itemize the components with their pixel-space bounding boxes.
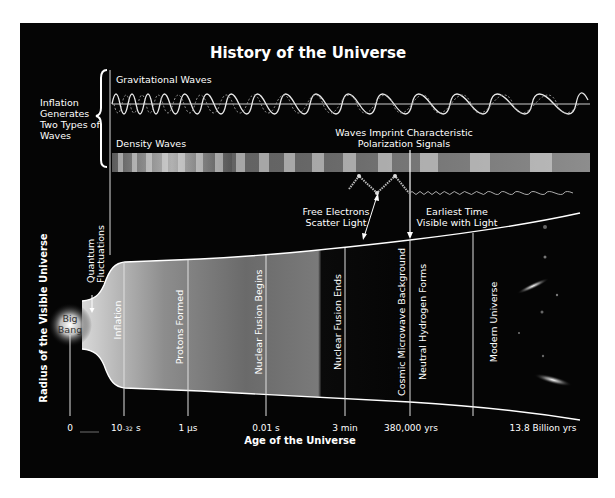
quantum-fluctuations-label: Quantum Fluctuations	[85, 225, 106, 283]
inflation-note-line-1: Inflation	[40, 97, 79, 108]
epoch-label-nuclear-fusion-ends: Nuclear Fusion Ends	[332, 274, 343, 370]
tick-inflation: 10 -32 s	[111, 423, 141, 433]
epoch-label-protons-formed: Protons Formed	[174, 290, 185, 364]
inflation-note-line-2: Generates	[40, 108, 89, 119]
inflation-note-line-3: Two Types of	[39, 119, 100, 130]
universe-cone	[82, 213, 580, 420]
tick-13-8-billion-yrs: 13.8 Billion yrs	[510, 423, 577, 433]
gravitational-waves-label: Gravitational Waves	[116, 74, 212, 85]
svg-text:s: s	[136, 423, 141, 433]
svg-text:Fluctuations: Fluctuations	[95, 225, 106, 283]
polarization-line-2: Polarization Signals	[358, 138, 450, 149]
tick-0-01-s: 0.01 s	[252, 423, 280, 433]
inflation-note: Inflation Generates Two Types of Waves	[39, 97, 100, 141]
arrow-down-small-icon	[362, 233, 367, 240]
inflation-note-line-4: Waves	[40, 130, 71, 141]
y-axis-label: Radius of the Visible Universe	[38, 233, 49, 403]
epoch-label-inflation: Inflation	[112, 301, 123, 340]
free-electrons-line-2: Scatter Light	[305, 217, 366, 228]
big-bang-line-1: Big	[62, 313, 77, 324]
tick-0: 0	[67, 423, 73, 433]
diagram-title: History of the Universe	[210, 44, 406, 62]
arrow-down-icon	[407, 232, 413, 239]
big-bang-line-2: Bang	[58, 324, 82, 335]
earliest-time-line-1: Earliest Time	[426, 206, 488, 217]
svg-text:10: 10	[111, 423, 123, 433]
free-electrons-line-1: Free Electrons	[302, 206, 369, 217]
history-diagram: History of the Universe Inflation Genera…	[0, 0, 615, 498]
epoch-label-neutral-hydrogen: Neutral Hydrogen Forms	[417, 264, 428, 380]
tick-3-min: 3 min	[332, 423, 358, 433]
galaxy-icons	[515, 225, 573, 389]
svg-text:-32: -32	[123, 425, 133, 432]
earliest-time-line-2: Visible with Light	[417, 217, 498, 228]
epoch-label-cmb: Cosmic Microwave Background	[396, 248, 407, 396]
x-axis-label: Age of the Universe	[244, 435, 356, 446]
photon-free-wave	[410, 192, 573, 195]
tick-1-microsecond: 1 µs	[178, 423, 197, 433]
density-waves-label: Density Waves	[116, 138, 186, 149]
epoch-label-nuclear-fusion-begins: Nuclear Fusion Begins	[253, 269, 264, 374]
tick-380000-yrs: 380,000 yrs	[384, 423, 438, 433]
photon-scatter-path	[349, 176, 409, 193]
epoch-label-modern-universe: Modern Universe	[488, 282, 499, 363]
polarization-line-1: Waves Imprint Characteristic	[335, 127, 473, 138]
